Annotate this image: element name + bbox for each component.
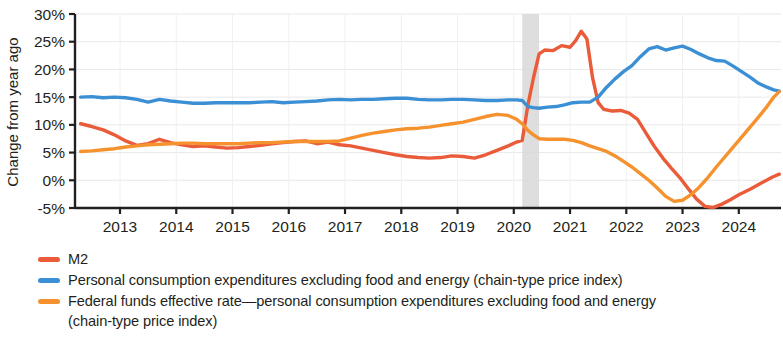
y-axis-label-text: Change from year ago	[4, 37, 21, 186]
x-tick-label: 2024	[722, 218, 757, 235]
x-tick-label: 2022	[609, 218, 643, 235]
x-tick-label: 2014	[159, 218, 194, 235]
legend-swatch-ffer	[38, 299, 60, 304]
x-tick-label: 2019	[440, 218, 474, 235]
chart-figure: 30%25%20%15%10%5%0%-5%201320142015201620…	[0, 0, 783, 341]
legend-swatch-pce	[38, 278, 60, 283]
y-tick-label: 0%	[43, 172, 66, 189]
x-tick-label: 2020	[497, 218, 532, 235]
legend-item-ffer[interactable]: Federal funds effective rate—personal co…	[38, 291, 783, 331]
y-tick-label: 20%	[34, 61, 65, 78]
legend-label-ffer: Federal funds effective rate—personal co…	[68, 291, 656, 331]
y-tick-label: 25%	[34, 33, 65, 50]
recession-band	[522, 14, 539, 208]
tick-labels: 30%25%20%15%10%5%0%-5%201320142015201620…	[34, 6, 756, 236]
x-tick-label: 2023	[665, 218, 699, 235]
legend-swatch-m2	[38, 257, 60, 262]
x-tick-label: 2013	[103, 218, 137, 235]
y-axis-label: Change from year ago	[4, 37, 21, 186]
series-line-1	[81, 46, 780, 108]
chart-legend: M2 Personal consumption expenditures exc…	[38, 249, 783, 332]
recession-band-layer	[522, 14, 539, 208]
legend-label-m2: M2	[68, 249, 88, 269]
x-tick-label: 2018	[384, 218, 418, 235]
series-line-0	[81, 31, 780, 207]
x-tick-label: 2017	[328, 218, 362, 235]
x-tick-label: 2016	[272, 218, 306, 235]
x-tick-label: 2021	[553, 218, 587, 235]
series-lines	[81, 31, 780, 207]
y-tick-label: 15%	[34, 89, 65, 106]
y-tick-label: 10%	[34, 116, 65, 133]
y-tick-label: 30%	[34, 6, 65, 23]
legend-item-pce[interactable]: Personal consumption expenditures exclud…	[38, 270, 783, 290]
legend-item-m2[interactable]: M2	[38, 249, 783, 269]
x-tick-label: 2015	[215, 218, 249, 235]
gridlines	[75, 14, 781, 208]
y-tick-label: 5%	[43, 144, 66, 161]
y-tick-label: -5%	[37, 200, 65, 217]
legend-label-pce: Personal consumption expenditures exclud…	[68, 270, 623, 290]
